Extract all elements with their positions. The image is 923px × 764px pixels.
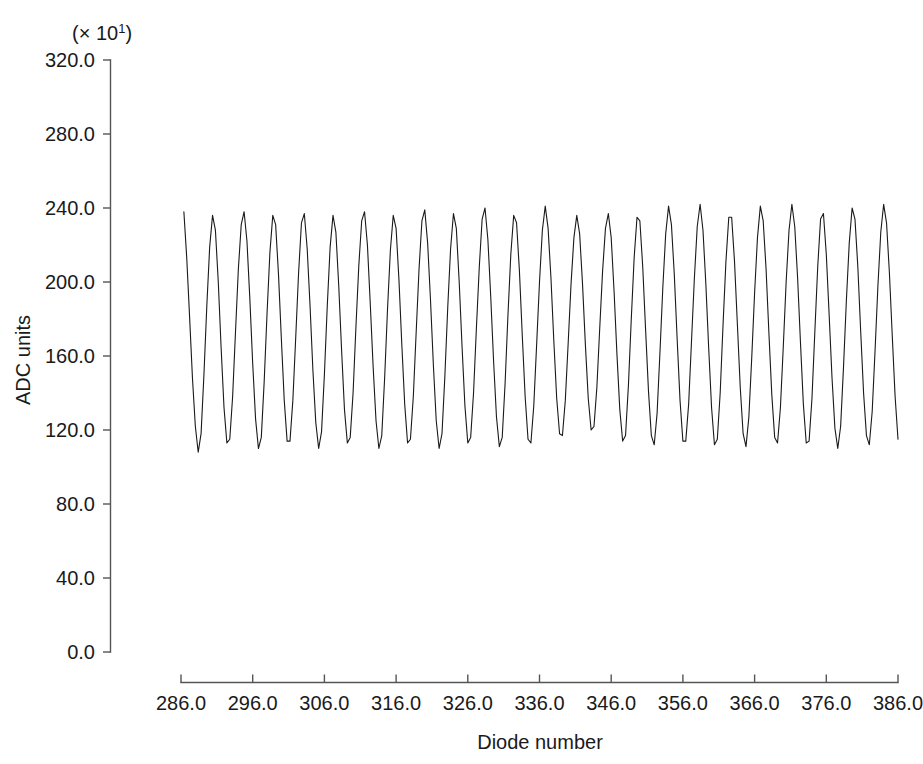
y-axis-tick-label: 120.0 (45, 419, 95, 441)
chart-svg: 0.040.080.0120.0160.0200.0240.0280.0320.… (0, 0, 923, 764)
x-axis-tick-marks (181, 675, 898, 683)
x-axis-tick-label: 356.0 (658, 692, 708, 714)
x-axis-tick-label: 346.0 (586, 692, 636, 714)
x-axis-tick-labels: 286.0296.0306.0316.0326.0336.0346.0356.0… (156, 692, 923, 714)
x-axis-tick-label: 376.0 (801, 692, 851, 714)
y-axis-multiplier-prefix: (× 10 (72, 22, 118, 44)
y-axis-multiplier: (× 101) (72, 21, 132, 44)
x-axis-tick-label: 316.0 (371, 692, 421, 714)
y-axis-tick-label: 0.0 (67, 641, 95, 663)
y-axis-tick-label: 240.0 (45, 197, 95, 219)
x-axis-title: Diode number (477, 731, 603, 753)
x-axis-tick-label: 306.0 (299, 692, 349, 714)
y-axis-tick-label: 160.0 (45, 345, 95, 367)
y-axis-tick-label: 200.0 (45, 271, 95, 293)
y-axis-tick-label: 320.0 (45, 49, 95, 71)
x-axis-group: 286.0296.0306.0316.0326.0336.0346.0356.0… (156, 675, 923, 754)
x-axis-tick-label: 286.0 (156, 692, 206, 714)
y-axis-multiplier-suffix: ) (125, 22, 132, 44)
chart-container: 0.040.080.0120.0160.0200.0240.0280.0320.… (0, 0, 923, 764)
y-axis-tick-label: 280.0 (45, 123, 95, 145)
fringe-waveform-line (184, 204, 898, 452)
y-axis-tick-label: 80.0 (56, 493, 95, 515)
y-axis-group: 0.040.080.0120.0160.0200.0240.0280.0320.… (12, 21, 132, 663)
y-axis-tick-label: 40.0 (56, 567, 95, 589)
y-axis-multiplier-exponent: 1 (118, 21, 125, 36)
x-axis-tick-label: 366.0 (730, 692, 780, 714)
x-axis-tick-label: 336.0 (514, 692, 564, 714)
y-axis-title: ADC units (12, 315, 34, 405)
y-axis-tick-marks (103, 60, 111, 652)
x-axis-tick-label: 326.0 (443, 692, 493, 714)
x-axis-tick-label: 386.0 (873, 692, 923, 714)
y-axis-tick-labels: 0.040.080.0120.0160.0200.0240.0280.0320.… (45, 49, 95, 663)
x-axis-tick-label: 296.0 (228, 692, 278, 714)
data-series-group (184, 204, 898, 452)
